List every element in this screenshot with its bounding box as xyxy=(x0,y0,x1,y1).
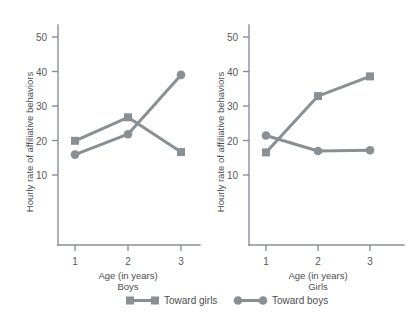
marker-toward-boys-boys-age3 xyxy=(177,71,186,80)
panel-boys: Hourly rate of affiliative behaviors 50 … xyxy=(24,25,200,292)
y-tick-label-30-boys: 30 xyxy=(36,101,48,112)
y-tick-label-20-girls: 20 xyxy=(227,136,239,147)
legend-label-toward-girls: Toward girls xyxy=(164,295,217,306)
y-tick-label-20-boys: 20 xyxy=(36,136,48,147)
x-tick-label-2-boys: 2 xyxy=(125,256,131,267)
y-tick-label-30-girls: 30 xyxy=(227,101,239,112)
marker-toward-girls-girls-age2-fixed xyxy=(314,92,322,100)
marker-toward-girls-girls-age1-fixed xyxy=(262,148,270,156)
marker-toward-boys-boys-age2 xyxy=(124,130,133,139)
legend-marker-circle-icon xyxy=(234,296,243,305)
y-tick-label-10-boys: 10 xyxy=(36,170,48,181)
marker-toward-girls-boys-age3 xyxy=(177,148,185,156)
marker-toward-girls-boys-age2 xyxy=(124,113,132,121)
legend-marker-square-icon-end xyxy=(151,297,159,305)
legend-item-toward-girls[interactable]: Toward girls xyxy=(126,295,217,306)
marker-toward-girls-boys-age1 xyxy=(71,137,79,145)
x-tick-label-1-girls: 1 xyxy=(263,256,269,267)
y-tick-label-50-boys: 50 xyxy=(36,32,48,43)
y-tick-label-10-girls: 10 xyxy=(227,170,239,181)
x-tick-label-1-boys: 1 xyxy=(72,256,78,267)
x-tick-label-2-girls: 2 xyxy=(315,256,321,267)
legend-marker-square-icon xyxy=(126,297,134,305)
y-tick-label-40-girls: 40 xyxy=(227,67,239,78)
x-ticks-boys xyxy=(75,245,181,251)
y-tick-label-40-boys: 40 xyxy=(36,67,48,78)
marker-toward-boys-boys-age1 xyxy=(71,150,80,159)
x-tick-label-3-boys: 3 xyxy=(178,256,184,267)
legend-item-toward-boys[interactable]: Toward boys xyxy=(234,295,328,306)
legend-marker-circle-icon-end xyxy=(259,296,268,305)
x-tick-label-3-girls: 3 xyxy=(367,256,373,267)
x-ticks-girls xyxy=(266,245,370,251)
marker-toward-boys-girls-age2-redraw xyxy=(314,147,323,156)
y-axis-label-boys: Hourly rate of affiliative behaviors xyxy=(24,72,35,213)
y-ticks-girls xyxy=(243,37,249,175)
y-tick-label-50-girls: 50 xyxy=(227,32,239,43)
y-ticks-boys xyxy=(52,37,58,175)
x-axis-label-girls: Age (in years) xyxy=(288,270,347,281)
marker-toward-boys-girls-age3-redraw xyxy=(366,146,375,155)
legend-label-toward-boys: Toward boys xyxy=(272,295,328,306)
x-axis-label-boys: Age (in years) xyxy=(98,270,157,281)
marker-toward-girls-girls-age3-fixed xyxy=(366,72,374,80)
two-panel-line-chart: Hourly rate of affiliative behaviors 50 … xyxy=(0,0,410,313)
panel-title-boys: Boys xyxy=(117,281,138,292)
figure-container: Hourly rate of affiliative behaviors 50 … xyxy=(0,0,410,313)
panel-title-girls: Girls xyxy=(308,281,328,292)
marker-toward-boys-girls-age1-redraw xyxy=(262,131,271,140)
legend: Toward girls Toward boys xyxy=(126,295,328,306)
series-toward-girls-girls-correction xyxy=(256,62,382,166)
y-axis-label-girls: Hourly rate of affiliative behaviors xyxy=(215,72,226,213)
